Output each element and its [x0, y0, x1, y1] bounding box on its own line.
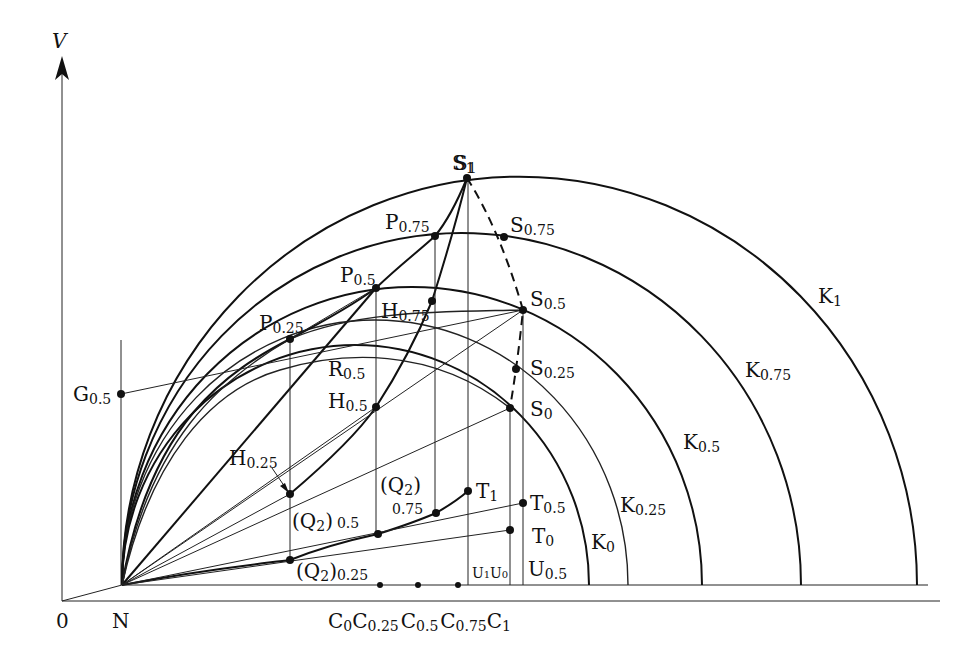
label-k05: K0.5 [683, 430, 720, 455]
label-q2-05: (Q2)0.5 [292, 509, 359, 534]
label-u05: U0.5 [528, 557, 567, 582]
label-h075: H0.75 [381, 299, 430, 324]
label-s05: S0.5 [530, 287, 566, 312]
point-g05 [117, 390, 125, 398]
label-s0: S0 [530, 397, 553, 422]
point-q2-075 [432, 509, 440, 517]
point-q2-05 [374, 530, 382, 538]
label-u1: U1 [472, 565, 490, 581]
label-s075: S0.75 [510, 213, 555, 238]
point-c0 [377, 582, 383, 588]
point-t05 [519, 499, 527, 507]
point-c025 [415, 582, 421, 588]
diagram-canvas: V 0 N S1 K1 K0.75 K0.5 K0.25 K0 S1 S0.75… [0, 0, 970, 665]
point-h05 [372, 403, 380, 411]
point-t1 [464, 487, 472, 495]
h-curve [290, 178, 467, 494]
label-k0: K0 [591, 530, 615, 555]
label-u0: U0 [490, 565, 508, 581]
point-t0 [506, 526, 514, 534]
label-k1: K1 [818, 284, 842, 309]
origin-label: 0 [56, 609, 69, 633]
curve-k075 [122, 233, 801, 585]
v-axis-label: V [52, 29, 69, 53]
label-t1: T1 [476, 479, 498, 504]
label-s025: S0.25 [530, 356, 575, 381]
label-r05: R0.5 [328, 357, 365, 382]
label-c-series: C0C0.25C0.5C0.75C1 [328, 609, 511, 634]
label-q2-075-sub: 0.75 [392, 501, 423, 517]
point-s025 [512, 365, 520, 373]
label-p05: P0.5 [340, 263, 376, 288]
label-t05: T0.5 [530, 491, 566, 516]
label-p025: P0.25 [259, 311, 304, 336]
point-p075 [431, 232, 439, 240]
h025-arrowhead-icon [280, 483, 289, 493]
point-p025 [286, 335, 294, 343]
label-k025: K0.25 [620, 493, 666, 518]
point-q2-025 [286, 556, 294, 564]
label-q2-025: (Q2)0.25 [296, 559, 368, 584]
point-s075 [500, 233, 508, 241]
label-s1: S1 [452, 151, 475, 176]
point-s0 [506, 404, 514, 412]
label-h025: H0.25 [229, 446, 278, 471]
label-p075: P0.75 [385, 210, 430, 235]
origin-to-n-line [62, 585, 122, 601]
label-q2-075: (Q2) [380, 473, 421, 498]
label-t0: T0 [532, 524, 554, 549]
k-curves [122, 177, 917, 585]
label-h05: H0.5 [328, 389, 368, 414]
label-g05: G0.5 [73, 382, 111, 407]
curve-k05 [122, 287, 702, 585]
point-c05 [455, 582, 461, 588]
point-h075 [428, 297, 436, 305]
axes [55, 56, 940, 601]
point-s05 [519, 306, 527, 314]
label-k075: K0.75 [745, 358, 791, 383]
n-label: N [112, 609, 130, 633]
